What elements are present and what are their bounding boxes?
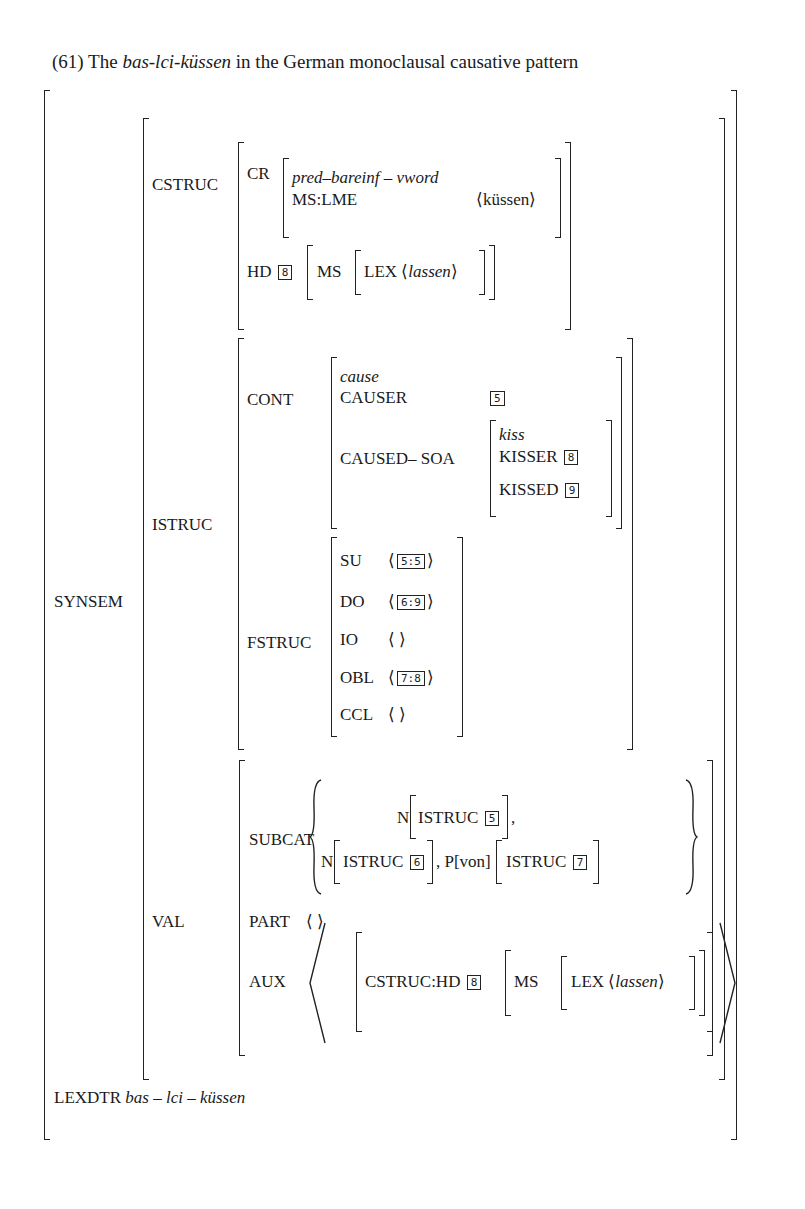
fstruc-right-bracket	[462, 537, 463, 737]
aux-tag: 8	[467, 975, 482, 990]
arg2-right-bracket	[432, 840, 433, 884]
ms-lme-value: ⟨küssen⟩	[476, 190, 536, 210]
su-tag: 5:5	[397, 554, 425, 569]
aux-ms-right-bracket	[694, 956, 695, 1010]
caption-text: in the German monoclausal causative patt…	[236, 51, 578, 72]
soa-left-bracket	[490, 420, 491, 517]
arg2-istruc-label: ISTRUC	[343, 852, 403, 871]
istruc-right-bracket	[632, 338, 633, 750]
lexdtr-value: bas – lci – küssen	[125, 1088, 245, 1107]
hd-lex: LEX ⟨lassen⟩	[364, 262, 458, 282]
arg2-istruc: ISTRUC 6	[343, 852, 426, 872]
obl-tag: 7:8	[397, 671, 425, 686]
arg2-left-bracket	[334, 840, 335, 884]
val-label: VAL	[152, 912, 185, 932]
do-tag: 6:9	[397, 595, 425, 610]
su-value: ⟨5:5⟩	[388, 551, 434, 571]
arg2-tag: 6	[410, 855, 425, 870]
caused-soa-label: CAUSED– SOA	[340, 449, 455, 469]
aux-path-label: CSTRUC:HD	[365, 972, 460, 991]
obl-value: ⟨7:8⟩	[388, 668, 434, 688]
aux-left-angle-icon	[308, 922, 328, 1044]
cstruc-right-bracket	[570, 142, 571, 330]
aux-avm-left-bracket	[356, 932, 357, 1032]
cont-type: cause	[340, 367, 379, 387]
subcat-left-brace-icon	[309, 778, 323, 896]
cr-right-bracket	[560, 158, 561, 238]
aux-ms-left-bracket	[561, 956, 562, 1010]
aux-lex-label: LEX	[571, 972, 604, 991]
cr-left-bracket	[283, 158, 284, 238]
part-label: PART	[249, 912, 290, 932]
caption-text: The	[88, 51, 118, 72]
fstruc-row-obl: OBL	[340, 668, 374, 688]
ms-lme-label: MS:LME	[292, 190, 357, 210]
hd-right-bracket	[494, 245, 495, 300]
hd-ms-right-bracket	[484, 250, 485, 295]
arg3-category: , P[von]	[436, 852, 491, 872]
fstruc-row-su: SU	[340, 551, 362, 571]
arg1-category: N	[397, 808, 409, 827]
cr-label: CR	[247, 164, 270, 184]
io-value: ⟨ ⟩	[388, 630, 406, 650]
arg1-istruc: ISTRUC 5	[418, 808, 501, 828]
arg1-comma: ,	[511, 808, 515, 828]
kissed-tag: 9	[565, 483, 580, 498]
cont-label: CONT	[247, 390, 293, 410]
ms-lme-value-text: küssen	[483, 190, 529, 209]
arg1-right-bracket	[507, 795, 508, 839]
hd-tag: 8	[278, 265, 293, 280]
do-value: ⟨6:9⟩	[388, 592, 434, 612]
subcat-right-brace-icon	[684, 778, 698, 896]
arg1-tag: 5	[485, 811, 500, 826]
istruc-left-bracket	[238, 338, 239, 750]
cstruc-label: CSTRUC	[152, 175, 218, 195]
arg1-left-bracket	[410, 795, 411, 839]
io-label: IO	[340, 630, 358, 649]
subcat-label: SUBCAT	[249, 830, 314, 850]
causer-label: CAUSER	[340, 388, 407, 408]
kisser-label: KISSER	[499, 447, 558, 466]
hd-ms-left-bracket	[355, 250, 356, 295]
fstruc-row-ccl: CCL	[340, 705, 373, 725]
aux-hd-left-bracket	[505, 950, 506, 1016]
istruc-label: ISTRUC	[152, 515, 212, 535]
kisser-row: KISSER 8	[499, 447, 580, 467]
subcat-arg-1: N	[397, 808, 409, 828]
val-left-bracket	[239, 760, 240, 1056]
hd-ms-label: MS	[317, 262, 342, 282]
ccl-label: CCL	[340, 705, 373, 724]
aux-ms-label: MS	[514, 972, 539, 992]
hd-row: HD 8	[247, 262, 294, 282]
example-caption: (61) The bas-lci-küssen in the German mo…	[52, 52, 578, 72]
arg3-istruc: ISTRUC 7	[506, 852, 589, 872]
fstruc-row-io: IO	[340, 630, 358, 650]
hd-left-bracket	[307, 245, 308, 300]
obl-label: OBL	[340, 668, 374, 687]
hd-lex-label: LEX	[364, 262, 397, 281]
kisser-tag: 8	[564, 450, 579, 465]
synsem-label: SYNSEM	[54, 592, 123, 612]
cr-type: pred–bareinf – vword	[292, 168, 438, 188]
hd-label: HD	[247, 262, 272, 281]
lexdtr-row: LEXDTR bas – lci – küssen	[54, 1088, 245, 1108]
soa-right-bracket	[611, 420, 612, 517]
arg1-istruc-label: ISTRUC	[418, 808, 478, 827]
aux-right-angle-icon	[719, 922, 739, 1044]
causer-tag: 5	[490, 391, 505, 406]
fstruc-left-bracket	[331, 537, 332, 737]
cont-right-bracket	[621, 357, 622, 529]
arg3-right-bracket	[598, 840, 599, 884]
causer-value: 5	[488, 388, 507, 408]
arg3-left-bracket	[496, 840, 497, 884]
aux-label: AUX	[249, 972, 286, 992]
caption-italic-term: bas-lci-küssen	[122, 51, 231, 72]
aux-avm-right-bracket	[712, 932, 713, 1032]
aux-lex: LEX ⟨lassen⟩	[571, 972, 665, 992]
do-label: DO	[340, 592, 365, 611]
cont-left-bracket	[331, 357, 332, 529]
arg3-istruc-label: ISTRUC	[506, 852, 566, 871]
arg2-category: N	[321, 852, 333, 871]
lexdtr-label: LEXDTR	[54, 1088, 121, 1107]
arg3-pp-label: P[von]	[445, 852, 491, 871]
